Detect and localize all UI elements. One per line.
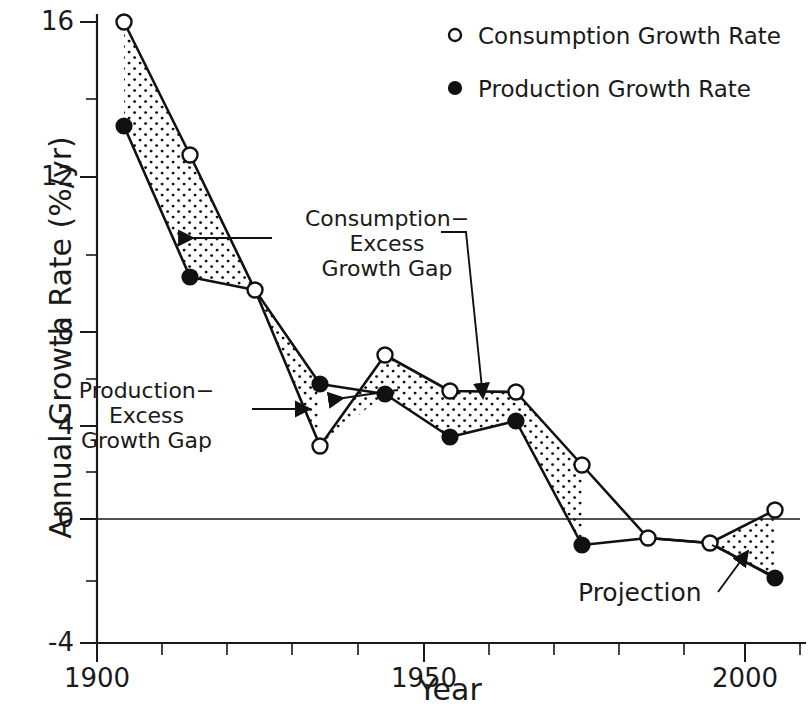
legend-marker-production xyxy=(449,82,461,94)
annotation-projection: Projection xyxy=(578,578,702,607)
x-axis-ticks xyxy=(97,643,800,662)
legend-item-consumption: Consumption Growth Rate xyxy=(478,20,781,52)
annotation-line-3: Growth Gap xyxy=(44,428,249,453)
x-tick-label-2000: 2000 xyxy=(695,663,795,693)
production-growth-line xyxy=(124,126,775,578)
annotation-line-2: Excess xyxy=(282,231,492,256)
annotation-production-excess-gap: Production− Excess Growth Gap xyxy=(44,378,249,453)
annotation-line-1: Production− xyxy=(44,378,249,403)
legend-marker-consumption xyxy=(449,29,461,41)
projection-leader xyxy=(718,551,748,592)
gap-bands xyxy=(124,22,775,578)
annotation-consumption-excess-gap: Consumption− Excess Growth Gap xyxy=(282,206,492,281)
annotation-line-2: Excess xyxy=(44,403,249,428)
legend-item-production: Production Growth Rate xyxy=(478,73,781,105)
legend-markers xyxy=(449,29,461,94)
y-axis-title: Annual Growth Rate (%/yr) xyxy=(43,78,78,598)
x-axis-title: Year xyxy=(350,672,550,707)
y-tick-label-minus4: -4 xyxy=(22,627,74,657)
growth-rate-chart: Consumption Growth Rate Production Growt… xyxy=(0,0,810,708)
projection-band xyxy=(710,510,775,578)
y-axis-ticks xyxy=(80,22,97,643)
consumption-excess-band-3 xyxy=(385,355,582,545)
x-tick-label-1900: 1900 xyxy=(47,663,147,693)
annotation-line-3: Growth Gap xyxy=(282,256,492,281)
chart-legend: Consumption Growth Rate Production Growt… xyxy=(478,20,781,105)
production-markers xyxy=(117,119,783,586)
annotation-line-1: Consumption− xyxy=(282,206,492,231)
y-tick-label-16: 16 xyxy=(30,6,74,36)
